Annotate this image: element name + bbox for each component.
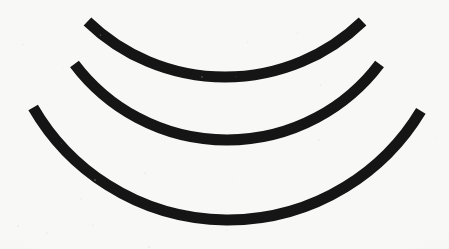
figure-background xyxy=(0,0,449,249)
arc-figure xyxy=(0,0,449,249)
arc-canvas xyxy=(0,0,449,249)
